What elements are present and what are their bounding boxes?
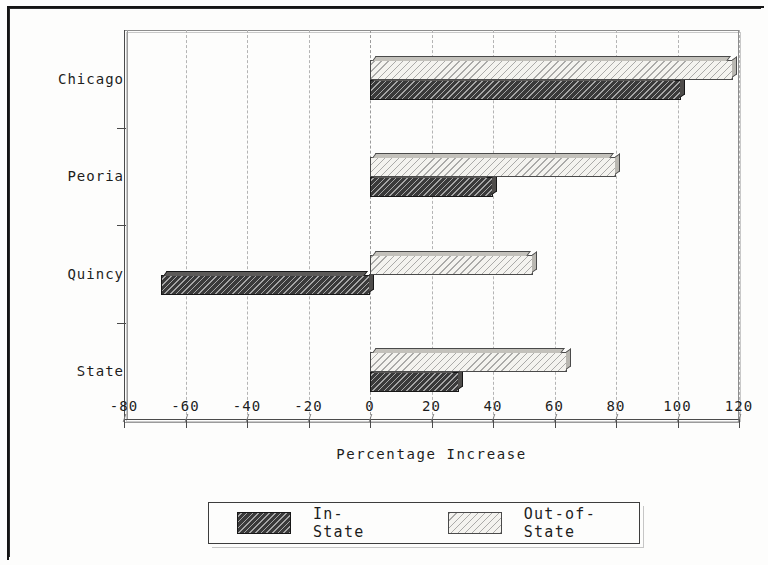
bar-out-of-state-chicago	[370, 60, 733, 80]
bar-top-face	[372, 56, 730, 61]
y-tick	[117, 128, 126, 129]
bar-side-face	[566, 348, 571, 370]
x-tick-label: 60	[545, 398, 564, 414]
gridline	[186, 30, 187, 420]
bar-side-face	[615, 153, 620, 175]
bar-out-of-state-quincy	[370, 255, 533, 275]
bar-top-face	[372, 348, 564, 353]
bar-side-face	[732, 56, 737, 78]
bar-out-of-state-peoria	[370, 157, 616, 177]
bar-in-state-state	[370, 372, 459, 392]
y-category-label: State	[77, 363, 124, 379]
x-tick-label: 80	[607, 398, 626, 414]
x-axis-title: Percentage Increase	[124, 446, 739, 462]
legend-label: In-State	[313, 505, 390, 541]
gridline	[247, 30, 248, 420]
chart-page: -80-60-40-20020406080100120 ChicagoPeori…	[0, 0, 768, 565]
x-tick-label: 100	[663, 398, 691, 414]
x-tick-label: -40	[233, 398, 261, 414]
y-axis-spine-shadow	[127, 30, 128, 420]
y-category-label: Peoria	[67, 168, 124, 184]
bar-top-face	[163, 271, 368, 276]
bar-in-state-chicago	[370, 80, 681, 100]
legend-item: In-State	[237, 505, 390, 541]
bar-out-of-state-state	[370, 352, 567, 372]
y-category-label: Quincy	[67, 266, 124, 282]
legend-swatch-out-of-state	[448, 512, 502, 534]
x-tick-label: 120	[725, 398, 753, 414]
x-tick-label: -80	[110, 398, 138, 414]
x-tick-label: 0	[365, 398, 374, 414]
bar-in-state-quincy	[161, 275, 370, 295]
plot-area	[124, 30, 739, 420]
gridline	[739, 30, 740, 420]
bar-top-face	[372, 153, 614, 158]
legend-entries: In-StateOut-of-State	[209, 503, 639, 543]
x-tick-label: -20	[294, 398, 322, 414]
bar-side-face	[532, 251, 537, 273]
legend-label: Out-of-State	[524, 505, 639, 541]
x-tick-label: -60	[171, 398, 199, 414]
gridline	[309, 30, 310, 420]
legend-swatch-in-state	[237, 512, 291, 534]
bar-top-face	[372, 251, 530, 256]
x-tick-label: 40	[484, 398, 503, 414]
y-tick	[117, 323, 126, 324]
y-tick	[117, 225, 126, 226]
legend-box: In-StateOut-of-State	[208, 502, 640, 544]
y-category-label: Chicago	[58, 71, 124, 87]
bar-in-state-peoria	[370, 177, 493, 197]
legend-item: Out-of-State	[448, 505, 639, 541]
x-tick-label: 20	[422, 398, 441, 414]
